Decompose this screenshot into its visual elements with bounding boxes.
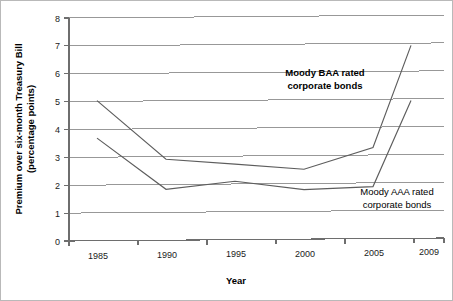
x-tick-label: 1985 (88, 251, 108, 261)
annotation-moody-aaa: Moody AAA rated corporate bonds (360, 186, 433, 210)
y-tick-label: 8 (55, 14, 60, 24)
chart-figure: 8 7 6 5 4 3 2 1 0 1985 1990 1995 2000 20… (0, 0, 453, 301)
y-tick-label: 3 (55, 153, 60, 163)
x-tick-label: 2005 (364, 248, 384, 258)
annotation-moody-baa-line2: corporate bonds (288, 80, 363, 91)
line-chart: 8 7 6 5 4 3 2 1 0 1985 1990 1995 2000 20… (1, 1, 453, 301)
annotation-moody-aaa-line1: Moody AAA rated (360, 186, 433, 197)
annotation-moody-aaa-line2: corporate bonds (363, 199, 432, 210)
x-tick-label: 2000 (295, 249, 315, 259)
annotation-moody-baa: Moody BAA rated corporate bonds (285, 67, 365, 91)
y-tick-label: 5 (55, 97, 60, 107)
x-tick-label: 2009 (419, 247, 439, 257)
x-tick-label: 1995 (226, 249, 246, 259)
x-tick-label: 1990 (157, 250, 177, 260)
y-axis-title: Premium over six-month Treasury Bill (pe… (13, 43, 36, 214)
y-tick-label: 1 (55, 209, 60, 219)
x-axis-title: Year (226, 275, 246, 286)
x-tick-labels: 1985 1990 1995 2000 2005 2009 (88, 247, 439, 261)
y-axis-title-line1: Premium over six-month Treasury Bill (13, 43, 24, 214)
series-line-moody-baa (97, 45, 411, 169)
y-tick-label: 7 (55, 41, 60, 51)
y-tick-marks (64, 18, 69, 241)
y-tick-label: 4 (55, 125, 60, 135)
series-line-moody-aaa (97, 101, 411, 190)
y-tick-labels: 8 7 6 5 4 3 2 1 0 (55, 14, 60, 247)
y-tick-label: 2 (55, 181, 60, 191)
y-axis-title-line2: (percentage points) (25, 85, 36, 173)
y-tick-label: 0 (55, 237, 60, 247)
annotation-moody-baa-line1: Moody BAA rated (285, 67, 365, 78)
x-axis (69, 238, 444, 241)
y-tick-label: 6 (55, 69, 60, 79)
